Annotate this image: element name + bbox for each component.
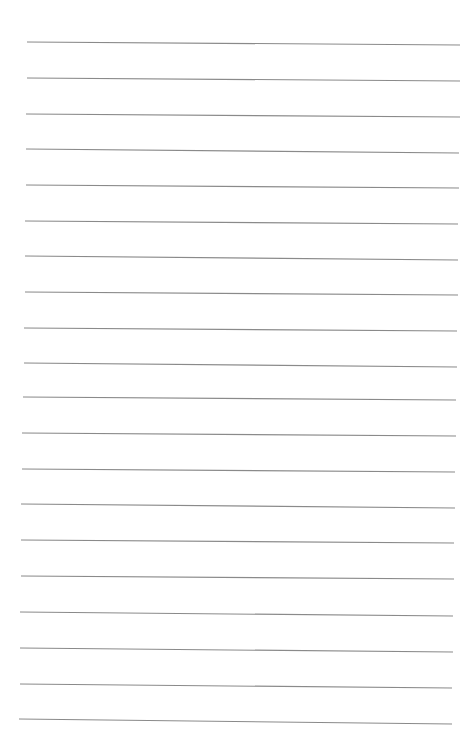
ruled-line (20, 612, 453, 616)
ruled-line (26, 114, 460, 117)
ruled-line (20, 684, 452, 688)
ruled-line (25, 256, 458, 260)
ruled-line (21, 540, 454, 543)
ruled-line (27, 78, 460, 81)
ruled-line (26, 149, 459, 153)
ruled-line (25, 292, 458, 295)
ruled-line (19, 719, 452, 724)
ruled-line (21, 504, 455, 508)
ruled-line (22, 433, 456, 436)
ruled-line (24, 363, 457, 367)
ruled-line (21, 576, 454, 579)
ruled-line (20, 648, 453, 652)
ruled-lines (0, 0, 462, 751)
ruled-line (25, 221, 458, 224)
ruled-line (26, 185, 459, 188)
ruled-line (24, 328, 457, 331)
lined-paper-page (0, 0, 462, 751)
ruled-line (22, 469, 455, 472)
ruled-line (23, 397, 456, 400)
ruled-line (27, 42, 460, 45)
